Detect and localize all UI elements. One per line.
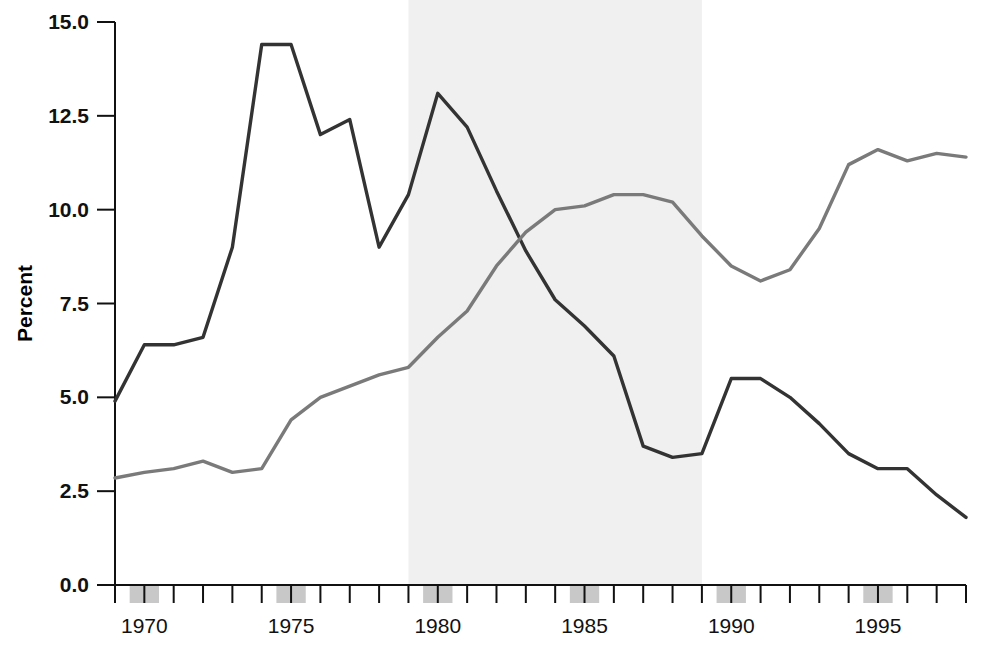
y-tick-label: 10.0 [48,198,89,221]
y-tick-label: 15.0 [48,10,89,33]
percent-line-chart: 0.02.55.07.510.012.515.0 197019751980198… [0,0,1006,662]
x-tick-label: 1980 [414,614,461,637]
x-tick-label: 1995 [855,614,902,637]
x-tick-label: 1985 [561,614,608,637]
highlight-band [408,0,701,585]
y-tick-label: 5.0 [60,385,89,408]
x-tick-label: 1990 [708,614,755,637]
y-tick-label: 2.5 [60,479,90,502]
chart-container: 0.02.55.07.510.012.515.0 197019751980198… [0,0,1006,662]
shaded-band-layer [408,0,701,585]
y-axis-title: Percent [13,265,36,342]
y-tick-label: 12.5 [48,104,89,127]
x-tick-label: 1975 [268,614,315,637]
x-tick-label: 1970 [121,614,168,637]
y-tick-label: 7.5 [60,292,90,315]
y-tick-label: 0.0 [60,573,89,596]
